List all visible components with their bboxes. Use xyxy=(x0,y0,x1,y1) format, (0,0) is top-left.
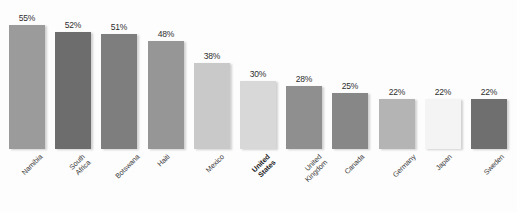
bar-group: 51% xyxy=(97,0,141,149)
bar-value-label: 22% xyxy=(467,87,511,97)
x-axis-label-slot: United States xyxy=(236,149,280,212)
bar-group: 22% xyxy=(421,0,465,149)
x-axis-label-slot: United Kingdom xyxy=(282,149,326,212)
bar-value-label: 52% xyxy=(51,20,95,30)
bar-group: 38% xyxy=(190,0,234,149)
bar-value-label: 55% xyxy=(5,13,49,23)
bar-value-label: 22% xyxy=(421,87,465,97)
x-axis-label: United States xyxy=(250,153,277,180)
bar[interactable] xyxy=(332,93,368,149)
x-axis-label: South Africa xyxy=(65,153,92,180)
x-axis-label-slot: Japan xyxy=(421,149,465,212)
bar-group: 22% xyxy=(467,0,511,149)
x-axis-label-slot: Haiti xyxy=(144,149,188,212)
x-axis-label: Namibia xyxy=(21,153,45,177)
x-axis-label-slot: Germany xyxy=(375,149,419,212)
bar-value-label: 51% xyxy=(97,22,141,32)
bar[interactable] xyxy=(425,99,461,149)
bar-group: 30% xyxy=(236,0,280,149)
bar[interactable] xyxy=(286,86,322,149)
bar[interactable] xyxy=(148,41,184,149)
x-axis-label: Sweden xyxy=(482,153,506,177)
x-axis-label-slot: Mexico xyxy=(190,149,234,212)
x-axis-label: Haiti xyxy=(156,153,172,169)
bar[interactable] xyxy=(194,63,230,149)
bar-value-label: 38% xyxy=(190,51,234,61)
x-axis-label: Mexico xyxy=(204,153,225,174)
bar-group: 55% xyxy=(5,0,49,149)
bar-value-label: 28% xyxy=(282,74,326,84)
x-axis-label-slot: South Africa xyxy=(51,149,95,212)
bar[interactable] xyxy=(55,32,91,149)
bar-group: 28% xyxy=(282,0,326,149)
bar[interactable] xyxy=(9,25,45,149)
x-axis-label-slot: Botswana xyxy=(97,149,141,212)
bar-chart: 55%52%51%48%38%30%28%25%22%22%22% Namibi… xyxy=(0,0,517,212)
x-axis-label: Botswana xyxy=(114,153,142,181)
x-axis-labels: NamibiaSouth AfricaBotswanaHaitiMexicoUn… xyxy=(0,149,517,212)
bar[interactable] xyxy=(471,99,507,149)
bar-value-label: 25% xyxy=(328,81,372,91)
bar-group: 22% xyxy=(375,0,419,149)
bar-group: 25% xyxy=(328,0,372,149)
bar[interactable] xyxy=(240,81,276,149)
x-axis-label: Canada xyxy=(343,153,366,176)
x-axis-label: United Kingdom xyxy=(298,153,329,184)
plot-area: 55%52%51%48%38%30%28%25%22%22%22% xyxy=(0,0,517,149)
bar[interactable] xyxy=(101,34,137,149)
bar-value-label: 30% xyxy=(236,69,280,79)
x-axis-label-slot: Namibia xyxy=(5,149,49,212)
bar-group: 48% xyxy=(144,0,188,149)
x-axis-label: Japan xyxy=(435,153,454,172)
x-axis-label-slot: Sweden xyxy=(467,149,511,212)
x-axis-label-slot: Canada xyxy=(328,149,372,212)
x-axis-label: Germany xyxy=(391,153,417,179)
bar[interactable] xyxy=(379,99,415,149)
bar-value-label: 48% xyxy=(144,29,188,39)
bar-value-label: 22% xyxy=(375,87,419,97)
bar-group: 52% xyxy=(51,0,95,149)
